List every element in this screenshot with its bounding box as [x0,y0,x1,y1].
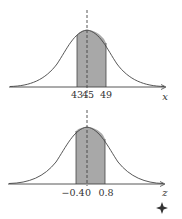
bottom-chart: −0.4 0 0.8 z [8,110,168,198]
top-tick-49: 49 [100,89,112,100]
figure: 43 45 49 x −0.4 0 0.8 z [0,0,182,219]
top-shaded-area [77,30,106,87]
bottom-tick-0: 0 [85,187,91,198]
bottom-axis-label: z [161,187,168,198]
star-marker-icon [156,202,168,214]
top-axis-label: x [162,91,168,102]
top-tick-45: 45 [82,89,94,100]
top-chart: 43 45 49 x [9,10,168,102]
bottom-tick-neg0.4: −0.4 [61,187,84,198]
bottom-tick-0.8: 0.8 [98,187,113,198]
